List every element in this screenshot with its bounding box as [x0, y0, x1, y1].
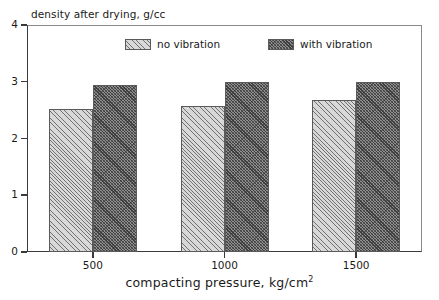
y-axis-tick-label: 4 [11, 18, 18, 31]
bar-no-vibration-1000 [181, 106, 225, 252]
bar-no-vibration-1500 [312, 100, 356, 252]
legend-swatch-icon-with-vibration [268, 39, 294, 50]
y-axis-tick-label: 2 [11, 132, 18, 145]
y-axis-tick-label: 1 [11, 188, 18, 201]
x-axis-title: compacting pressure, kg/cm2 [0, 275, 439, 290]
x-axis-tick-label: 500 [83, 259, 103, 271]
bar-with-vibration-500 [93, 85, 137, 252]
x-axis-title-exponent: 2 [308, 275, 313, 284]
y-axis-title: density after drying, g/cc [31, 8, 165, 20]
bar-with-vibration-1500 [356, 82, 400, 252]
legend-label-with-vibration: with vibration [300, 38, 372, 50]
plot-area [27, 25, 422, 252]
x-axis-tick-label: 1500 [343, 259, 370, 271]
bar-no-vibration-500 [49, 109, 93, 252]
legend-swatch-icon-no-vibration [125, 39, 151, 50]
x-axis-tick-mark [92, 252, 94, 258]
y-axis-tick-label: 3 [11, 75, 18, 88]
x-axis-tick-mark [224, 252, 226, 258]
x-axis-tick-label: 1000 [211, 259, 238, 271]
y-axis-tick-label: 0 [11, 245, 18, 258]
legend-entry-with-vibration: with vibration [268, 38, 372, 50]
legend-entry-no-vibration: no vibration [125, 38, 220, 50]
legend: no vibration with vibration [125, 38, 372, 50]
bar-with-vibration-1000 [225, 82, 269, 252]
bar-chart: density after drying, g/cc 01234 5001000… [0, 0, 439, 300]
x-axis-title-text: compacting pressure, kg/cm [125, 275, 308, 290]
x-axis-tick-mark [355, 252, 357, 258]
legend-label-no-vibration: no vibration [157, 38, 220, 50]
